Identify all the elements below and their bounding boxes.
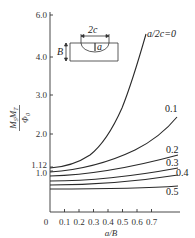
x-tick-0-1: 0.1 [59,217,70,227]
x-tick-0-4: 0.4 [102,217,114,227]
curve-label-0: a/2c=0 [147,28,176,39]
y-label-sub-t: T [13,107,19,111]
x-tick-0-2: 0.2 [73,217,84,227]
curve-label-0-4: 0.4 [176,167,189,178]
svg-text:Φ0: Φ0 [20,113,31,123]
y-axis-label: MSMT Φ0 [8,105,31,131]
curve-label-0-2: 0.2 [166,144,179,155]
inset-label-2c: 2c [88,24,98,35]
x-tick-labels: 0 0.1 0.2 0.3 0.4 0.5 0.6 0.7 [44,217,158,227]
y-label-sub-0: 0 [25,113,31,116]
curve-a2c-0-4 [50,175,178,185]
curves [50,34,178,189]
x-axis-label: a/B [105,228,118,238]
x-tick-0-7: 0.7 [146,217,158,227]
x-tick-0: 0 [44,217,49,227]
svg-text:MSMT: MSMT [8,107,19,130]
curve-a2c-0-5 [50,186,178,189]
curve-label-0-1: 0.1 [165,103,178,114]
y-tick-1: 1.0 [36,168,48,178]
y-tick-6: 6.0 [36,10,48,20]
y-tick-labels: 6.0 4.0 3.0 2.0 1.12 1.0 [31,10,47,178]
x-tick-0-6: 0.6 [131,217,143,227]
inset-label-a: a [97,41,102,52]
x-tick-0-5: 0.5 [117,217,129,227]
inset-label-b: B [57,46,63,57]
curve-a2c-0-2 [50,155,178,176]
y-tick-3: 3.0 [36,90,48,100]
x-tick-0-3: 0.3 [88,217,100,227]
inset-crack-diagram [65,34,119,61]
chart-canvas: 6.0 4.0 3.0 2.0 1.12 1.0 0 0.1 0.2 0.3 0… [0,0,195,238]
curve-a2c-0 [50,34,146,168]
y-tick-4: 4.0 [36,52,48,62]
curve-labels: a/2c=0 0.1 0.2 0.3 0.4 0.5 [147,28,189,197]
curve-label-0-5: 0.5 [166,186,179,197]
y-tick-2: 2.0 [36,129,48,139]
